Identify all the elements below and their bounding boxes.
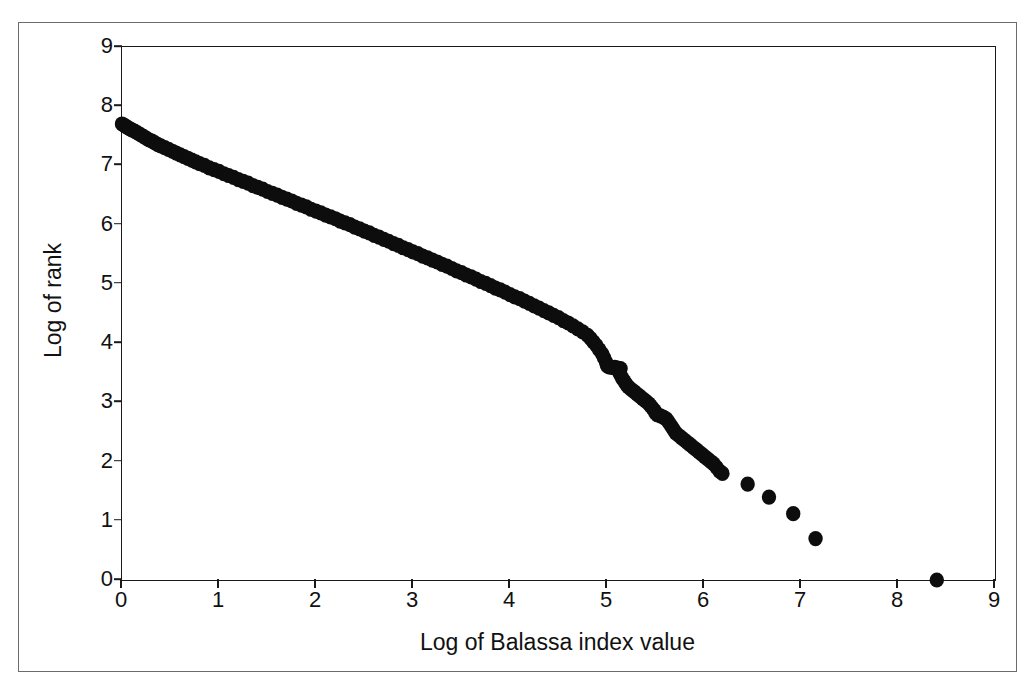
x-tick-label-8: 8: [877, 589, 917, 611]
scatter-plot-svg: [122, 47, 995, 580]
x-tick-label-7: 7: [780, 589, 820, 611]
x-tick-label-1: 1: [198, 589, 238, 611]
y-tick-label-7: 7: [79, 153, 113, 175]
x-tick-label-4: 4: [489, 589, 529, 611]
x-axis-ticks: [121, 579, 994, 588]
data-point: [762, 489, 776, 504]
y-tick-label-9: 9: [79, 35, 113, 57]
y-tick-label-2: 2: [79, 450, 113, 472]
x-tick-label-3: 3: [392, 589, 432, 611]
y-axis-tick-labels: 9 8 7 6 5 4 3 2 1 0: [69, 46, 113, 579]
y-tick-label-3: 3: [79, 390, 113, 412]
x-tick-label-0: 0: [101, 589, 141, 611]
x-axis-tick-labels: 0 1 2 3 4 5 6 7 8 9: [121, 589, 994, 621]
y-tick-label-0: 0: [79, 568, 113, 590]
data-point: [786, 506, 800, 521]
y-tick-label-6: 6: [79, 213, 113, 235]
x-axis-title: Log of Balassa index value: [121, 629, 994, 656]
data-point: [808, 531, 822, 546]
figure-frame: 9 8 7 6 5 4 3 2 1 0: [18, 22, 1017, 672]
x-tick-label-5: 5: [586, 589, 626, 611]
y-tick-label-5: 5: [79, 272, 113, 294]
y-tick-label-8: 8: [79, 94, 113, 116]
y-tick-label-1: 1: [79, 509, 113, 531]
x-tick-label-9: 9: [974, 589, 1014, 611]
plot-area: [121, 46, 996, 581]
y-tick-label-4: 4: [79, 331, 113, 353]
x-tick-label-6: 6: [683, 589, 723, 611]
data-point: [715, 466, 729, 481]
data-point-group: [115, 116, 944, 587]
x-tick-label-2: 2: [295, 589, 335, 611]
y-axis-title: Log of rank: [40, 181, 67, 421]
data-point: [740, 476, 754, 491]
